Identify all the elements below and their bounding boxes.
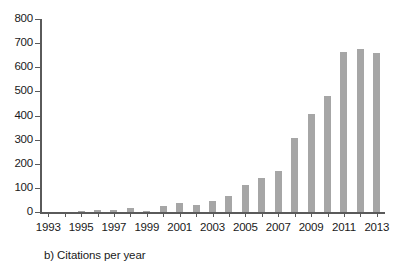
y-axis-tick-label-text: 700 — [3, 37, 33, 49]
bar — [225, 196, 232, 212]
x-axis-tick-label: 1999 — [130, 221, 164, 233]
y-axis-tick-label: 200 — [0, 158, 33, 170]
x-axis-tick-label: 1995 — [64, 221, 98, 233]
y-axis-tick-label-text: 0 — [3, 206, 33, 218]
x-axis-tick-label: 2003 — [196, 221, 230, 233]
x-axis-tick-label: 1997 — [97, 221, 131, 233]
x-axis-tick — [213, 213, 214, 217]
bar — [176, 203, 183, 212]
x-axis-tick — [295, 213, 296, 217]
y-axis-tick-label-text: 300 — [3, 134, 33, 146]
y-axis-tick-label-text: 400 — [3, 110, 33, 122]
x-axis-tick — [245, 213, 246, 217]
x-axis-tick — [130, 213, 131, 217]
bar — [357, 49, 364, 212]
bar — [242, 185, 249, 212]
bar — [275, 171, 282, 212]
bar — [340, 52, 347, 212]
bar — [160, 206, 167, 212]
x-axis-tick-label: 2011 — [327, 221, 361, 233]
x-axis-tick — [278, 213, 279, 217]
y-axis-tick-label-text: 200 — [3, 158, 33, 170]
y-axis-tick — [35, 212, 40, 213]
figure-caption: b) Citations per year — [44, 249, 145, 262]
x-axis-tick — [328, 213, 329, 217]
x-axis-tick — [196, 213, 197, 217]
y-axis-tick-label: 400 — [0, 110, 33, 122]
y-axis-tick-label: 700 — [0, 37, 33, 49]
y-axis-tick-label-text: 800 — [3, 13, 33, 25]
y-axis-tick-label: 800 — [0, 13, 33, 25]
x-axis-tick — [81, 213, 82, 217]
y-axis-tick-label: 600 — [0, 61, 33, 73]
x-axis-tick-label: 2005 — [228, 221, 262, 233]
x-axis-tick — [163, 213, 164, 217]
y-axis-tick-label: 100 — [0, 182, 33, 194]
x-axis-tick — [98, 213, 99, 217]
x-axis-tick-label: 2007 — [261, 221, 295, 233]
x-axis-tick — [114, 213, 115, 217]
x-axis-tick — [377, 213, 378, 217]
y-axis-tick-label: 0 — [0, 206, 33, 218]
x-axis-tick-label: 2009 — [294, 221, 328, 233]
x-axis-tick — [344, 213, 345, 217]
y-axis-tick-label-text: 600 — [3, 61, 33, 73]
x-axis-tick — [262, 213, 263, 217]
bar — [373, 53, 380, 212]
x-axis-tick — [360, 213, 361, 217]
bar — [78, 211, 85, 212]
y-axis-tick-label: 300 — [0, 134, 33, 146]
y-axis-tick-label-text: 100 — [3, 182, 33, 194]
bar — [143, 211, 150, 212]
bar — [127, 208, 134, 212]
bar — [209, 201, 216, 212]
y-axis-tick-label-text: 500 — [3, 85, 33, 97]
x-axis-tick — [147, 213, 148, 217]
citations-per-year-bar-chart: 0100200300400500600700800 19931995199719… — [0, 0, 397, 276]
bar — [193, 205, 200, 212]
plot-area — [40, 18, 385, 212]
bar — [324, 96, 331, 212]
x-axis-tick — [180, 213, 181, 217]
bar — [94, 210, 101, 212]
x-axis-tick-label: 1993 — [31, 221, 65, 233]
bar — [110, 210, 117, 212]
bar — [308, 114, 315, 212]
x-axis-tick-label: 2001 — [163, 221, 197, 233]
x-axis-tick — [48, 213, 49, 217]
y-axis-tick-label: 500 — [0, 85, 33, 97]
x-axis-tick — [311, 213, 312, 217]
x-axis-tick — [229, 213, 230, 217]
x-axis-tick-label: 2013 — [360, 221, 394, 233]
x-axis-tick — [65, 213, 66, 217]
bar — [291, 138, 298, 212]
bar — [258, 178, 265, 212]
